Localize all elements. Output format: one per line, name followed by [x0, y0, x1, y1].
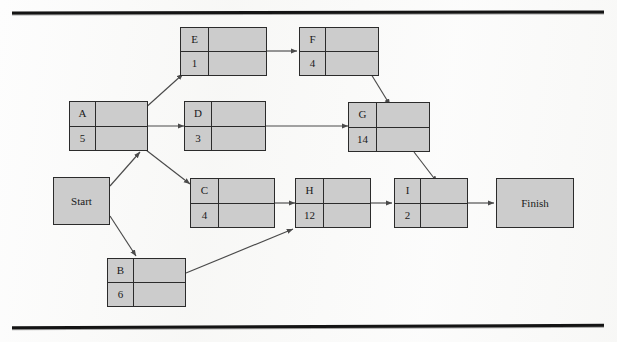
node-c[interactable]: C 4	[190, 178, 275, 228]
node-h-row-top: H	[296, 179, 370, 204]
node-finish-label: Finish	[521, 197, 549, 209]
node-d-duration: 3	[185, 127, 212, 151]
node-h-row-bottom: 12	[296, 204, 370, 228]
node-h-cell-bottom-right	[324, 204, 370, 228]
node-b-row-bottom: 6	[108, 283, 185, 306]
node-h-label: H	[296, 179, 324, 203]
node-c-duration: 4	[191, 204, 219, 228]
node-e-row-top: E	[181, 28, 266, 52]
node-e-cell-top-right	[209, 28, 266, 51]
node-i-duration: 2	[395, 204, 421, 228]
node-i-cell-top-right	[421, 179, 467, 203]
node-c-label: C	[191, 179, 219, 203]
node-b-duration: 6	[108, 283, 134, 306]
edge-b-h	[186, 229, 293, 273]
node-g-row-top: G	[349, 103, 429, 128]
edge-f-g	[371, 74, 390, 105]
node-g-duration: 14	[349, 128, 377, 152]
node-start[interactable]: Start	[53, 177, 110, 225]
edge-start-a	[110, 152, 140, 186]
node-i-row-top: I	[395, 179, 467, 204]
node-e-label: E	[181, 28, 209, 51]
node-c-row-top: C	[191, 179, 274, 204]
edge-a-e	[143, 74, 183, 110]
node-b[interactable]: B 6	[107, 258, 186, 307]
node-f-cell-top-right	[326, 28, 378, 51]
edge-start-b	[110, 216, 136, 256]
node-b-row-top: B	[108, 259, 185, 283]
node-i-label: I	[395, 179, 421, 203]
node-d-label: D	[185, 102, 212, 126]
node-e-cell-bottom-right	[209, 52, 266, 75]
node-f-row-top: F	[300, 28, 378, 52]
node-g-cell-bottom-right	[377, 128, 429, 152]
node-finish[interactable]: Finish	[496, 178, 574, 228]
node-a-cell-top-right	[96, 102, 147, 126]
node-a-row-bottom: 5	[70, 127, 147, 151]
node-d-cell-top-right	[212, 102, 265, 126]
node-i-row-bottom: 2	[395, 204, 467, 228]
node-b-cell-bottom-right	[134, 283, 185, 306]
node-g-row-bottom: 14	[349, 128, 429, 152]
node-b-cell-top-right	[134, 259, 185, 282]
node-e-row-bottom: 1	[181, 52, 266, 75]
diagram-page: Start A 5 B 6	[0, 0, 617, 342]
node-f-duration: 4	[300, 52, 326, 75]
node-f-cell-bottom-right	[326, 52, 378, 75]
network-diagram-canvas: Start A 5 B 6	[0, 0, 617, 342]
node-h-cell-top-right	[324, 179, 370, 203]
node-h[interactable]: H 12	[295, 178, 371, 228]
node-a-row-top: A	[70, 102, 147, 127]
node-g-label: G	[349, 103, 377, 127]
node-e[interactable]: E 1	[180, 27, 267, 76]
node-i-cell-bottom-right	[421, 204, 467, 228]
node-d[interactable]: D 3	[184, 101, 266, 151]
node-d-row-top: D	[185, 102, 265, 127]
node-start-label: Start	[71, 195, 92, 207]
node-a-label: A	[70, 102, 96, 126]
node-a-duration: 5	[70, 127, 96, 151]
node-c-cell-bottom-right	[219, 204, 274, 228]
node-a[interactable]: A 5	[69, 101, 148, 151]
edge-a-c	[146, 150, 190, 184]
node-b-label: B	[108, 259, 134, 282]
node-e-duration: 1	[181, 52, 209, 75]
node-c-cell-top-right	[219, 179, 274, 203]
node-d-cell-bottom-right	[212, 127, 265, 151]
node-f-label: F	[300, 28, 326, 51]
node-f[interactable]: F 4	[299, 27, 379, 76]
node-i[interactable]: I 2	[394, 178, 468, 228]
node-c-row-bottom: 4	[191, 204, 274, 228]
node-a-cell-bottom-right	[96, 127, 147, 151]
node-d-row-bottom: 3	[185, 127, 265, 151]
node-f-row-bottom: 4	[300, 52, 378, 75]
node-h-duration: 12	[296, 204, 324, 228]
node-g-cell-top-right	[377, 103, 429, 127]
node-g[interactable]: G 14	[348, 102, 430, 152]
